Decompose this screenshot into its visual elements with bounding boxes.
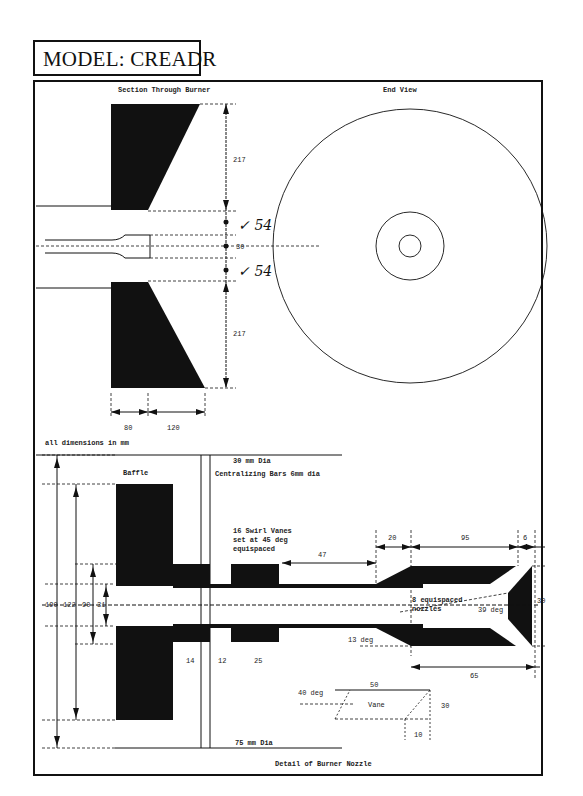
- swirl-note-3: equispaced: [233, 545, 275, 553]
- dim-65: 65: [470, 672, 478, 680]
- swirl-note-2: set at 45 deg: [233, 536, 288, 544]
- dim-95: 95: [461, 534, 469, 542]
- dim-6: 6: [523, 534, 527, 542]
- dim-center-gap: 30: [236, 243, 244, 251]
- angle-cone: 13 deg: [348, 636, 373, 644]
- lower-burner-block: [111, 282, 205, 388]
- top-note-1: 30 mm Dia: [233, 457, 272, 465]
- section-title: Section Through Burner: [118, 86, 210, 94]
- burner-drawing: Section Through Burner: [0, 0, 583, 796]
- top-note-2: Centralizing Bars 6mm dia: [215, 470, 321, 478]
- handwritten-upper-gap: ✓ 54: [238, 217, 272, 233]
- dim-12: 12: [218, 657, 226, 665]
- dim-190: 190: [45, 601, 58, 609]
- drawing-frame: [34, 81, 542, 775]
- dim-25: 25: [254, 657, 262, 665]
- end-view: End View: [273, 86, 547, 383]
- units-note: all dimensions in mm: [45, 439, 129, 447]
- bottom-note: 75 mm Dia: [235, 739, 274, 747]
- end-view-title: End View: [383, 86, 417, 94]
- dim-30-right: 30: [537, 597, 545, 605]
- dim-31: 31: [97, 601, 105, 609]
- inner-circle: [399, 235, 421, 257]
- handwritten-lower-gap: ✓ 54: [238, 263, 272, 279]
- dim-14: 14: [186, 657, 194, 665]
- dim-47: 47: [318, 551, 326, 559]
- dim-width-b: 120: [167, 424, 180, 432]
- swirl-note-1: 16 Swirl Vanes: [233, 527, 292, 535]
- dim-lower-height: 217: [233, 330, 246, 338]
- section-view: Section Through Burner: [36, 86, 320, 432]
- dim-20: 20: [388, 534, 396, 542]
- vane-label: Vane: [368, 701, 385, 709]
- baffle-label: Baffle: [123, 469, 148, 477]
- upper-burner-block: [111, 104, 200, 210]
- middle-circle: [376, 212, 444, 280]
- detail-view: Baffle 30 mm Dia Centralizing Bars 6mm d…: [36, 455, 545, 768]
- port-note-1: 8 equispaced: [412, 596, 462, 604]
- angle-vane: 40 deg: [298, 689, 323, 697]
- outer-circle: [273, 109, 547, 383]
- dim-122: 122: [63, 601, 76, 609]
- detail-title: Detail of Burner Nozzle: [275, 760, 372, 768]
- vane-length: 50: [370, 681, 378, 689]
- dim-width-a: 80: [124, 424, 132, 432]
- angle-nozzle: 39 deg: [478, 606, 503, 614]
- vane-offset: 10: [414, 731, 422, 739]
- dim-90: 90: [82, 601, 90, 609]
- dim-upper-height: 217: [233, 156, 246, 164]
- vane-height: 30: [441, 702, 449, 710]
- vane-detail: 40 deg 50 Vane 30 10: [298, 681, 449, 740]
